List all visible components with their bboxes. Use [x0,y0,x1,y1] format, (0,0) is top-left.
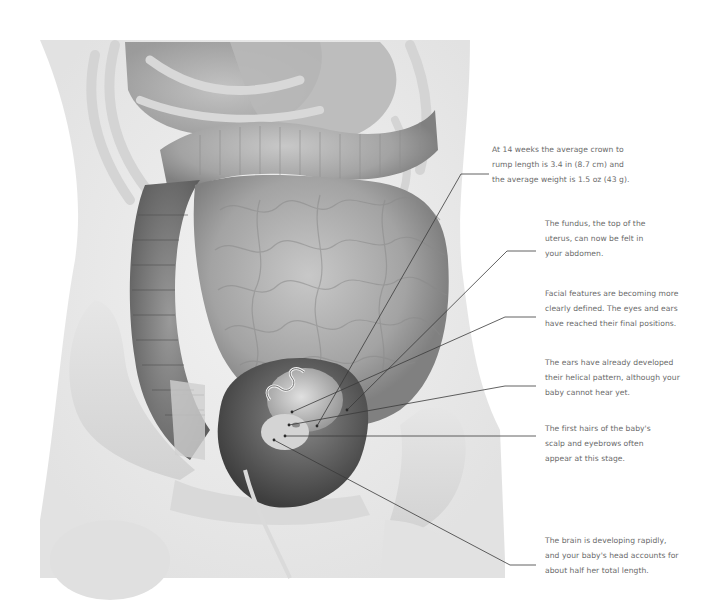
sacrum [170,380,205,460]
annotation-hairs: The first hairs of the baby's scalp and … [545,421,651,466]
annotation-facial-features: Facial features are becoming more clearl… [545,286,678,331]
right-femur-head [50,520,170,600]
annotation-brain: The brain is developing rapidly, and you… [545,533,679,578]
fetus-head [261,414,309,450]
annotation-crown-rump: At 14 weeks the average crown to rump le… [492,142,629,187]
annotation-ears: The ears have already developed their he… [545,355,680,400]
annotation-fundus: The fundus, the top of the uterus, can n… [545,216,645,261]
anatomy-figure: At 14 weeks the average crown to rump le… [0,0,709,616]
